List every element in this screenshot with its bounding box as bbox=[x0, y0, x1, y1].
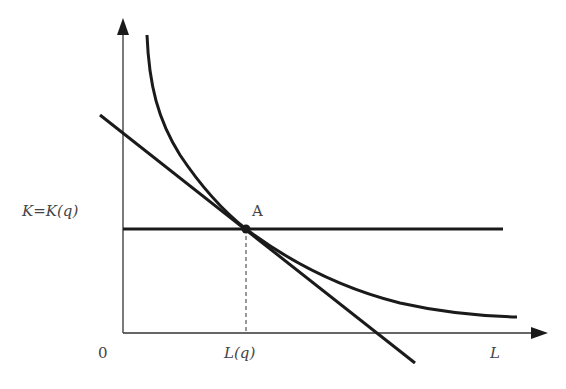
diagram-canvas: A K=K(q) 0 L(q) L bbox=[0, 0, 566, 389]
origin-label: 0 bbox=[98, 344, 108, 362]
isoquant-curve bbox=[147, 35, 517, 317]
x-axis-arrow-icon bbox=[531, 327, 548, 339]
y-axis-arrow-icon bbox=[117, 18, 129, 35]
l-level-label: L(q) bbox=[223, 344, 255, 362]
point-a-label: A bbox=[251, 202, 263, 220]
k-level-label: K=K(q) bbox=[21, 202, 78, 220]
point-a-marker bbox=[242, 225, 251, 234]
x-axis-label: L bbox=[489, 344, 500, 362]
